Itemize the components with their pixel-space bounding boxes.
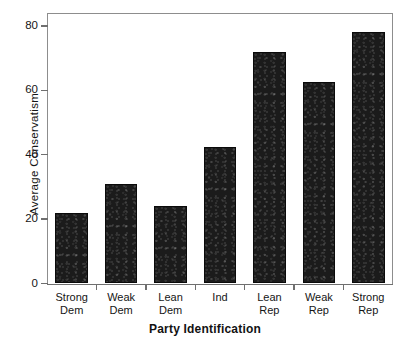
y-axis-tick: [41, 90, 48, 91]
category-label-line: Rep: [294, 304, 343, 317]
category-label-line: Strong: [344, 291, 393, 304]
x-axis-tick: [96, 284, 97, 290]
y-axis-tick-label: 80: [10, 20, 38, 32]
category-label-line: Lean: [146, 291, 195, 304]
x-axis-tick: [145, 284, 146, 290]
y-axis-tick-label: 40: [10, 149, 38, 161]
y-axis-tick: [41, 25, 48, 26]
y-axis-tick: [41, 218, 48, 219]
x-axis-category-label: LeanDem: [146, 291, 195, 316]
category-label-line: Strong: [47, 291, 96, 304]
x-axis-line: [47, 284, 393, 285]
category-label-line: Lean: [245, 291, 294, 304]
category-label-line: Dem: [47, 304, 96, 317]
x-axis-category-label: StrongDem: [47, 291, 96, 316]
category-label-line: Weak: [294, 291, 343, 304]
category-label-line: Ind: [195, 291, 244, 304]
x-axis-category-label: Ind: [195, 291, 244, 304]
y-axis-tick-label: 60: [10, 84, 38, 96]
y-axis-tick-label: 0: [10, 278, 38, 290]
y-axis-tick: [41, 283, 48, 284]
x-axis-category-label: WeakRep: [294, 291, 343, 316]
x-axis-tick: [293, 284, 294, 290]
x-axis-category-label: WeakDem: [96, 291, 145, 316]
x-axis-tick: [195, 284, 196, 290]
category-label-line: Weak: [96, 291, 145, 304]
x-axis-tick: [343, 284, 344, 290]
category-label-line: Rep: [245, 304, 294, 317]
category-label-line: Dem: [96, 304, 145, 317]
x-axis-category-label: StrongRep: [344, 291, 393, 316]
plot-frame: [47, 13, 393, 284]
y-axis-tick-label: 20: [10, 213, 38, 225]
x-axis-title: Party Identification: [0, 322, 410, 336]
category-label-line: Rep: [344, 304, 393, 317]
x-axis-category-label: LeanRep: [245, 291, 294, 316]
bar-chart-figure: Average Conservatism 020406080 StrongDem…: [0, 0, 410, 345]
x-axis-tick: [244, 284, 245, 290]
y-axis-tick: [41, 154, 48, 155]
category-label-line: Dem: [146, 304, 195, 317]
